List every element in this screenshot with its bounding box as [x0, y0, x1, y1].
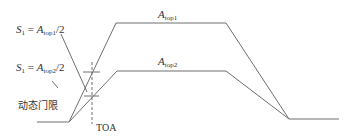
- label-dynamic-threshold: 动态门限: [18, 101, 58, 111]
- leader-s1-top2: [52, 81, 58, 88]
- label-a-top2: Atop2: [158, 56, 177, 69]
- label-s1-top1: S1 = Atop1/2: [16, 24, 64, 37]
- label-s1-top2: S1 = Atop2/2: [16, 62, 64, 75]
- leader-s1-top1: [61, 34, 87, 92]
- label-a-top1: Atop1: [158, 9, 177, 22]
- pulse-top2: [69, 71, 289, 122]
- label-toa: TOA: [96, 123, 116, 133]
- pulse-top1: [69, 23, 289, 122]
